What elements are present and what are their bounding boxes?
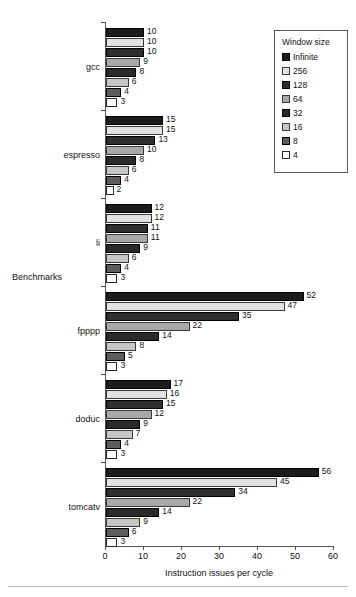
bar-row: 4 [106,176,334,185]
legend-item-32[interactable]: 32 [282,108,341,118]
bar-value-label: 6 [132,76,137,87]
bar-value-label: 5 [128,350,133,361]
x-tick-label: 30 [214,551,224,561]
bar-value-label: 47 [288,300,297,311]
bar-tomcatv-64 [106,498,190,507]
x-tick-label: 50 [290,551,300,561]
legend-swatch-icon [282,137,290,145]
x-tick-mark [143,546,144,550]
bar-value-label: 9 [143,516,148,527]
bar-doduc-4 [106,450,117,459]
bar-value-label: 9 [143,242,148,253]
x-tick-label: 20 [176,551,186,561]
bar-row: 6 [106,528,334,537]
bar-row: 3 [106,362,334,371]
bar-espresso-4 [106,186,114,195]
category-label-espresso: espresso [63,150,100,160]
bar-row: 12 [106,410,334,419]
bar-value-label: 6 [132,526,137,537]
bar-group-fpppp: 5247352214853 [106,292,334,372]
bar-gcc-4 [106,98,117,107]
bar-row: 3 [106,450,334,459]
bar-li-128 [106,224,148,233]
bar-value-label: 22 [193,496,202,507]
bar-row: 45 [106,478,334,487]
bar-row: 11 [106,224,334,233]
bar-row: 9 [106,244,334,253]
bar-value-label: 3 [120,96,125,107]
bar-row: 22 [106,498,334,507]
legend-swatch-icon [282,81,290,89]
category-label-tomcatv: tomcatv [68,502,100,512]
legend-label: 128 [293,80,307,90]
legend-item-128[interactable]: 128 [282,80,341,90]
legend-swatch-icon [282,151,290,159]
legend: Window size Infinite25612864321684 [274,30,348,173]
legend-label: 16 [293,122,302,132]
bar-row: 6 [106,254,334,263]
bar-value-label: 10 [147,144,156,155]
legend-title: Window size [282,37,341,47]
legend-swatch-icon [282,67,290,75]
bar-row: 3 [106,274,334,283]
bar-gcc-8 [106,88,121,97]
bar-fpppp-256 [106,302,285,311]
bar-row: 17 [106,380,334,389]
page-divider-rule [8,586,348,587]
bar-value-label: 6 [132,164,137,175]
bar-doduc-Infinite [106,380,171,389]
legend-swatch-icon [282,109,290,117]
bar-fpppp-4 [106,362,117,371]
category-label-fpppp: fpppp [77,326,100,336]
bar-gcc-256 [106,38,144,47]
bar-value-label: 3 [120,272,125,283]
bar-espresso-64 [106,146,144,155]
legend-item-64[interactable]: 64 [282,94,341,104]
legend-swatch-icon [282,123,290,131]
bar-row: 56 [106,468,334,477]
bar-doduc-8 [106,440,121,449]
legend-swatch-icon [282,53,290,61]
legend-item-256[interactable]: 256 [282,66,341,76]
bar-row: 12 [106,204,334,213]
y-axis-title: Benchmarks [12,272,62,282]
bar-value-label: 10 [147,46,156,57]
legend-item-16[interactable]: 16 [282,122,341,132]
legend-item-4[interactable]: 4 [282,150,341,160]
legend-item-Infinite[interactable]: Infinite [282,52,341,62]
bar-value-label: 9 [143,418,148,429]
legend-item-8[interactable]: 8 [282,136,341,146]
x-tick-mark [219,546,220,550]
bar-value-label: 7 [136,428,141,439]
bar-value-label: 8 [139,154,144,165]
bar-value-label: 8 [139,66,144,77]
bar-value-label: 14 [162,330,171,341]
category-label-gcc: gcc [86,62,100,72]
legend-label: 256 [293,66,307,76]
bar-tomcatv-8 [106,528,129,537]
bar-value-label: 6 [132,252,137,263]
legend-label: 4 [293,150,298,160]
bar-tomcatv-128 [106,488,235,497]
bar-group-tomcatv: 5645342214963 [106,468,334,548]
legend-label: 8 [293,136,298,146]
bar-group-li: 121211119643 [106,204,334,284]
bar-tomcatv-256 [106,478,277,487]
bar-value-label: 4 [124,174,129,185]
bar-value-label: 3 [120,360,125,371]
bar-row: 11 [106,234,334,243]
bar-fpppp-64 [106,322,190,331]
bar-li-Infinite [106,204,152,213]
bar-value-label: 14 [162,506,171,517]
bar-value-label: 34 [238,486,247,497]
legend-label: Infinite [293,52,318,62]
bar-espresso-Infinite [106,116,163,125]
bar-li-64 [106,234,148,243]
bar-row: 34 [106,488,334,497]
bar-row: 35 [106,312,334,321]
bar-row: 52 [106,292,334,301]
bar-value-label: 13 [158,134,167,145]
bar-value-label: 52 [307,290,316,301]
bar-doduc-256 [106,390,167,399]
grouped-bar-chart: 1010109864315151310864212121111964352473… [0,0,356,597]
